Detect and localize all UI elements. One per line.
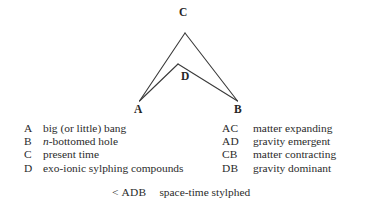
legend-footer-description: space-time stylphed	[159, 186, 250, 199]
edge-CA	[140, 33, 186, 101]
legend-description: matter expanding	[253, 122, 332, 135]
angle-diagram: C D A B	[0, 0, 373, 122]
legend-description: gravity dominant	[253, 162, 331, 175]
legend-key: A	[24, 122, 43, 135]
legend-row: C present time	[24, 148, 183, 161]
less-than-sign: <	[112, 186, 118, 199]
legend-description: gravity emergent	[253, 135, 330, 148]
legend-row: AD gravity emergent	[222, 135, 336, 148]
legend-row: DB gravity dominant	[222, 162, 336, 175]
legend-row: A big (or little) bang	[24, 122, 183, 135]
legend-description: big (or little) bang	[43, 122, 126, 135]
legend-key: AC	[222, 122, 253, 135]
legend-row: B n-bottomed hole	[24, 135, 183, 148]
legend-row: D exo-ionic sylphing compounds	[24, 162, 183, 175]
legend-description: exo-ionic sylphing compounds	[43, 162, 183, 175]
legend-row: AC matter expanding	[222, 122, 336, 135]
legend-key: DB	[222, 162, 253, 175]
legend-description: matter contracting	[253, 148, 336, 161]
node-label-d: D	[181, 71, 189, 83]
node-label-c: C	[179, 7, 187, 19]
edge-CB	[185, 33, 238, 101]
legend-row: CB matter contracting	[222, 148, 336, 161]
legend-column-left: A big (or little) bang B n-bottomed hole…	[24, 122, 183, 175]
legend-desc-post: -bottomed hole	[49, 135, 118, 147]
legend-description: present time	[43, 148, 99, 161]
legend-desc-pre: big (or little) bang	[43, 122, 126, 134]
diagram-edges	[140, 33, 238, 101]
legend-key: AD	[222, 135, 253, 148]
legend-footer-key: ADB	[121, 186, 146, 199]
legend-desc-pre: exo-ionic sylphing compounds	[43, 162, 183, 174]
legend-key: D	[24, 162, 43, 175]
legend-key: CB	[222, 148, 253, 161]
edge-DA	[140, 64, 179, 101]
legend-description: n-bottomed hole	[43, 135, 118, 148]
legend-desc-pre: present time	[43, 148, 99, 160]
legend-footer-row: < ADB space-time stylphed	[112, 186, 250, 199]
node-label-b: B	[234, 104, 242, 116]
legend: A big (or little) bang B n-bottomed hole…	[0, 122, 373, 215]
node-label-a: A	[134, 104, 142, 116]
legend-column-right: AC matter expanding AD gravity emergent …	[222, 122, 336, 175]
legend-key: C	[24, 148, 43, 161]
legend-key: B	[24, 135, 43, 148]
figure-container: C D A B A big (or little) bang B n-botto…	[0, 0, 373, 215]
